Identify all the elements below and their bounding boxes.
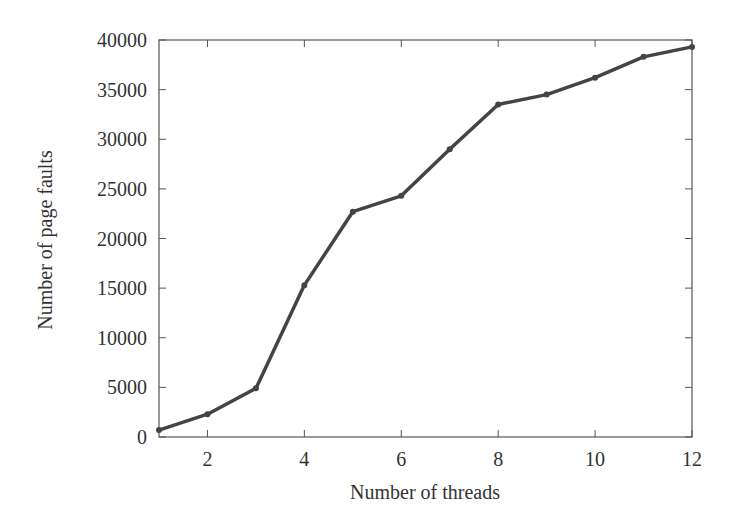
y-tick-label: 20000	[97, 228, 147, 250]
data-point-marker	[398, 193, 404, 199]
y-tick-label: 40000	[97, 29, 147, 51]
data-point-marker	[689, 44, 695, 50]
x-tick-label: 6	[396, 448, 406, 470]
data-point-marker	[350, 209, 356, 215]
series-line	[159, 47, 692, 430]
x-tick-label: 12	[682, 448, 702, 470]
line-chart: 0500010000150002000025000300003500040000…	[0, 0, 740, 527]
y-tick-label: 15000	[97, 277, 147, 299]
x-tick-label: 2	[202, 448, 212, 470]
data-point-marker	[641, 54, 647, 60]
y-axis-label: Number of page faults	[34, 150, 57, 330]
data-point-marker	[301, 282, 307, 288]
plot-border	[159, 40, 692, 437]
data-point-marker	[495, 102, 501, 108]
y-tick-label: 10000	[97, 327, 147, 349]
series-lines	[156, 44, 695, 433]
y-tick-label: 30000	[97, 128, 147, 150]
data-point-marker	[253, 385, 259, 391]
plot-frame	[159, 40, 692, 437]
y-tick-label: 5000	[107, 376, 147, 398]
data-point-marker	[592, 75, 598, 81]
x-tick-label: 10	[585, 448, 605, 470]
y-tick-label: 0	[137, 426, 147, 448]
x-axis-label: Number of threads	[350, 481, 500, 503]
x-axis-ticks: 24681012	[202, 40, 702, 470]
data-point-marker	[544, 92, 550, 98]
y-axis-ticks: 0500010000150002000025000300003500040000	[97, 29, 692, 448]
y-tick-label: 35000	[97, 79, 147, 101]
data-point-marker	[156, 427, 162, 433]
y-tick-label: 25000	[97, 178, 147, 200]
data-point-marker	[204, 411, 210, 417]
data-point-marker	[447, 146, 453, 152]
x-tick-label: 8	[493, 448, 503, 470]
x-tick-label: 4	[299, 448, 309, 470]
